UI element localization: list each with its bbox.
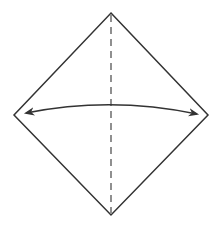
origami-diagram: [0, 0, 215, 226]
